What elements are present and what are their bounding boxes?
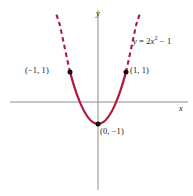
point-marker-right	[124, 70, 129, 75]
plot-canvas	[0, 0, 193, 196]
point-label-right: (1, 1)	[130, 66, 149, 75]
parabola-figure: y x (−1, 1) (1, 1) (0, −1) y = 2x2 − 1	[0, 0, 193, 196]
x-axis-label: x	[179, 104, 183, 113]
point-label-left: (−1, 1)	[25, 66, 49, 75]
equation-label: y = 2x2 − 1	[133, 35, 171, 45]
curve-dashed-left	[56, 12, 70, 72]
y-axis-label: y	[96, 9, 100, 18]
equation-rhs: − 1	[158, 36, 172, 46]
point-label-vertex: (0, −1)	[100, 127, 124, 136]
point-marker-left	[68, 70, 73, 75]
equation-operator: = 2	[137, 36, 151, 46]
